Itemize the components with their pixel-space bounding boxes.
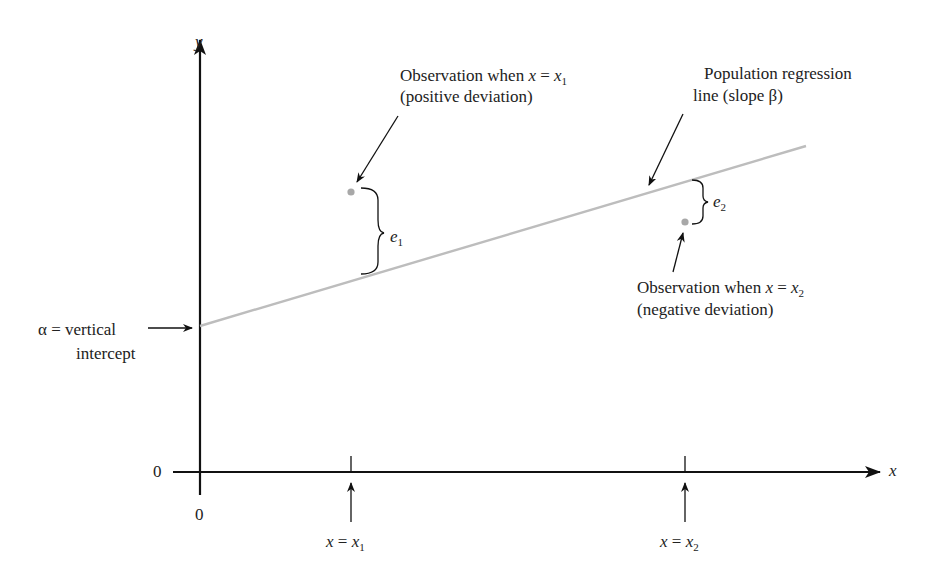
x-axis-label: x xyxy=(889,461,897,481)
x2-tick-var: x xyxy=(660,532,668,551)
regression-line-label-line1: Population regression xyxy=(704,64,852,84)
error-label-2-var: e xyxy=(713,192,721,211)
y-axis-label: y xyxy=(195,32,203,52)
observation2-label: Observation when x = x2 xyxy=(637,278,804,299)
observation1-pointer-arrow xyxy=(357,116,398,182)
observation1-eq: = xyxy=(536,66,554,85)
observation1-sub: 1 xyxy=(562,75,568,87)
regression-line xyxy=(200,146,806,326)
x2-tick-eq: = xyxy=(668,532,686,551)
observation-point-2 xyxy=(681,218,688,225)
intercept-label-line1: α = vertical xyxy=(38,320,116,340)
observation-point-1 xyxy=(347,188,354,195)
x1-tick-sub: 1 xyxy=(359,541,365,553)
observation1-label: Observation when x = x1 xyxy=(400,66,567,87)
origin-y-zero: 0 xyxy=(153,462,162,482)
error-label-1-sub: 1 xyxy=(398,236,404,248)
observation2-label-line2: (negative deviation) xyxy=(637,300,773,320)
regression-line-label-line2: line (slope β) xyxy=(693,86,783,106)
observation2-val: x xyxy=(791,278,799,297)
observation1-val: x xyxy=(554,66,562,85)
error-label-1: e1 xyxy=(390,227,403,248)
observation1-var: x xyxy=(528,66,536,85)
x1-tick-eq: = xyxy=(334,532,352,551)
observation2-sub: 2 xyxy=(799,287,805,299)
observation1-label-line2: (positive deviation) xyxy=(400,87,533,107)
error-brace-2 xyxy=(692,180,708,224)
error-label-2-sub: 2 xyxy=(721,201,727,213)
observation2-pointer-arrow xyxy=(673,233,683,272)
observation2-label-prefix: Observation when xyxy=(637,278,765,297)
x1-tick-var: x xyxy=(326,532,334,551)
x1-tick-label: x = x1 xyxy=(326,532,365,553)
x2-tick-label: x = x2 xyxy=(660,532,699,553)
error-label-2: e2 xyxy=(713,192,726,213)
error-label-1-var: e xyxy=(390,227,398,246)
x2-tick-sub: 2 xyxy=(693,541,699,553)
observation1-label-prefix: Observation when xyxy=(400,66,528,85)
origin-x-zero: 0 xyxy=(195,505,204,525)
observation2-var: x xyxy=(765,278,773,297)
observation2-eq: = xyxy=(773,278,791,297)
regression-line-pointer-arrow xyxy=(649,114,683,185)
error-brace-1 xyxy=(361,188,384,274)
intercept-label-line2: intercept xyxy=(76,344,135,364)
